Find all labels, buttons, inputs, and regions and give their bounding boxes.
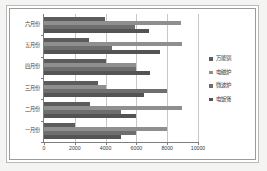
legend-swatch-icon	[209, 71, 213, 75]
legend-item: 万能锅	[209, 52, 253, 66]
legend-item: 电饭煲	[209, 93, 253, 107]
bar	[44, 71, 150, 75]
bar	[44, 50, 160, 54]
bar-group: 四月份	[44, 57, 198, 78]
chart-container: 0200040006000800010000 六月份五月份四月份三月份二月份一月…	[13, 11, 252, 157]
bar	[44, 29, 149, 33]
legend-swatch-icon	[209, 84, 213, 88]
y-tick-label: 四月份	[25, 64, 40, 69]
bar-group: 三月份	[44, 78, 198, 99]
legend-label: 微波炉	[216, 83, 231, 88]
bar	[44, 114, 136, 118]
y-tick-label: 五月份	[25, 43, 40, 48]
x-tick-label: 10000	[191, 146, 205, 151]
gridline	[198, 14, 199, 142]
chart-legend: 万能锅电磁炉微波炉电饭煲	[209, 52, 253, 106]
legend-item: 电磁炉	[209, 66, 253, 80]
bar-group: 一月份	[44, 121, 198, 142]
bar-group: 二月份	[44, 99, 198, 120]
y-tick-label: 二月份	[25, 107, 40, 112]
legend-label: 万能锅	[216, 56, 231, 61]
bar-group: 五月份	[44, 35, 198, 56]
plot-area: 0200040006000800010000 六月份五月份四月份三月份二月份一月…	[43, 14, 198, 143]
bar	[44, 93, 144, 97]
legend-item: 微波炉	[209, 79, 253, 93]
y-tick-mark	[41, 142, 44, 143]
x-tick-label: 0	[43, 146, 46, 151]
x-tick-label: 2000	[69, 146, 81, 151]
bar	[44, 135, 121, 139]
x-tick-label: 4000	[100, 146, 112, 151]
y-tick-label: 三月份	[25, 86, 40, 91]
bar-group: 六月份	[44, 14, 198, 35]
legend-label: 电饭煲	[216, 97, 231, 102]
y-tick-label: 一月份	[25, 128, 40, 133]
legend-swatch-icon	[209, 98, 213, 102]
y-tick-label: 六月份	[25, 22, 40, 27]
x-tick-label: 8000	[161, 146, 173, 151]
screenshot-root: 0200040006000800010000 六月份五月份四月份三月份二月份一月…	[0, 0, 267, 171]
x-tick-label: 6000	[131, 146, 143, 151]
legend-swatch-icon	[209, 57, 213, 61]
legend-label: 电磁炉	[216, 70, 231, 75]
